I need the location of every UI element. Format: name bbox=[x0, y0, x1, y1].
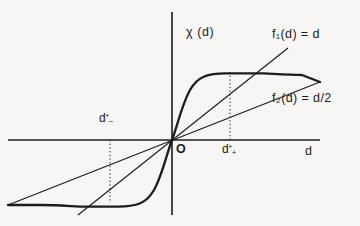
d-plus-base: d bbox=[222, 142, 229, 156]
f2-function-label: f₂(d) = d/2 bbox=[272, 92, 332, 105]
d-plus-subscript: + bbox=[232, 148, 237, 157]
d-minus-base: d bbox=[99, 111, 106, 125]
x-axis-label: d bbox=[305, 145, 312, 158]
d-minus-subscript: − bbox=[109, 117, 114, 126]
chi-function-figure: χ (d) d O f₁(d) = d f₂(d) = d/2 d*− d*+ bbox=[0, 0, 360, 226]
d-plus-label: d*+ bbox=[222, 143, 236, 155]
y-axis-label: χ (d) bbox=[186, 26, 214, 39]
d-minus-label: d*− bbox=[99, 112, 113, 124]
f1-function-label: f₁(d) = d bbox=[272, 28, 320, 41]
origin-label: O bbox=[176, 143, 186, 156]
